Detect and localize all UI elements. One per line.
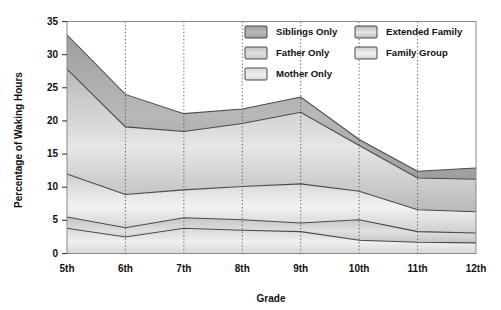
y-tick-label-35: 35 [47, 16, 59, 27]
x-tick-label-7th: 7th [176, 263, 191, 274]
legend-swatch-father-only [245, 47, 267, 59]
x-tick-label-8th: 8th [235, 263, 250, 274]
y-axis-title: Percentage of Waking Hours [13, 72, 24, 208]
legend-label-family-group: Family Group [386, 47, 448, 58]
y-tick-label-25: 25 [47, 82, 59, 93]
x-tick-label-12th: 12th [466, 263, 487, 274]
y-tick-label-15: 15 [47, 148, 59, 159]
legend-swatch-family-group [355, 47, 377, 59]
legend-label-extended-family: Extended Family [386, 26, 463, 37]
legend-swatch-mother-only [245, 68, 267, 80]
y-tick-label-0: 0 [52, 248, 58, 259]
y-tick-label-5: 5 [52, 214, 58, 225]
legend-label-siblings-only: Siblings Only [276, 26, 338, 37]
x-tick-label-6th: 6th [118, 263, 133, 274]
y-tick-label-10: 10 [47, 181, 59, 192]
x-tick-label-9th: 9th [293, 263, 308, 274]
legend-swatch-siblings-only [245, 26, 267, 38]
x-tick-label-10th: 10th [349, 263, 370, 274]
stacked-area-chart: 05101520253035 5th6th7th8th9th10th11th12… [0, 0, 501, 310]
legend-label-father-only: Father Only [276, 47, 330, 58]
x-axis-title: Grade [257, 293, 286, 304]
legend-label-mother-only: Mother Only [276, 68, 333, 79]
x-tick-label-11th: 11th [408, 263, 428, 274]
legend-swatch-extended-family [355, 26, 377, 38]
y-tick-label-20: 20 [47, 115, 59, 126]
x-tick-label-5th: 5th [60, 263, 75, 274]
y-tick-label-30: 30 [47, 49, 59, 60]
chart-canvas: 05101520253035 5th6th7th8th9th10th11th12… [0, 0, 501, 310]
